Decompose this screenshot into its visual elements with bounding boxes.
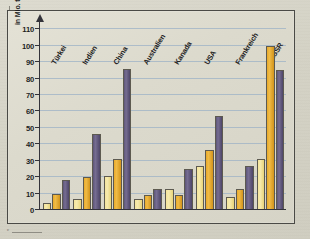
bar: [215, 116, 224, 211]
y-axis-tick-label: 100: [22, 41, 34, 50]
chart-frame: in Mio. t TürkeiIndienChinaAustralienKan…: [7, 10, 295, 224]
y-axis-tick-label: 80: [26, 74, 34, 83]
bar: [236, 189, 245, 210]
x-axis-line: [39, 209, 286, 210]
plot-area: TürkeiIndienChinaAustralienKanadaUSAFran…: [39, 21, 286, 210]
bar: [83, 177, 92, 210]
bar: [184, 169, 193, 210]
bar-group: USA: [194, 21, 225, 210]
y-axis-line: [39, 21, 40, 210]
category-label: Kanada: [172, 40, 193, 66]
bar-group: Türkei: [41, 21, 72, 210]
bar-group: Indien: [72, 21, 103, 210]
y-axis-title: in Mio. t: [14, 0, 21, 25]
y-axis-tick: [35, 209, 39, 210]
registration-tick-bottom-left: [12, 232, 42, 233]
y-axis-tick: [35, 127, 39, 128]
y-axis-tick: [35, 78, 39, 79]
bar: [62, 180, 71, 210]
y-axis-tick: [35, 61, 39, 62]
bar: [205, 150, 214, 210]
y-axis-tick-label: 20: [26, 173, 34, 182]
bar: [196, 166, 205, 210]
bar: [266, 46, 275, 210]
y-axis-tick: [35, 45, 39, 46]
bar: [113, 159, 122, 210]
y-axis-tick-label: 30: [26, 156, 34, 165]
bar-groups: TürkeiIndienChinaAustralienKanadaUSAFran…: [41, 21, 286, 210]
category-label: Indien: [80, 44, 99, 66]
y-axis-tick-label: 60: [26, 107, 34, 116]
bar-group: Kanada: [164, 21, 195, 210]
y-axis-tick: [35, 28, 39, 29]
y-axis-tick: [35, 110, 39, 111]
bar: [165, 189, 174, 210]
y-axis-tick: [35, 143, 39, 144]
bar: [104, 176, 113, 211]
bar: [257, 159, 266, 210]
category-label: USA: [203, 49, 219, 67]
y-axis-tick: [35, 160, 39, 161]
category-label: Türkei: [50, 44, 69, 67]
y-axis-tick-label: 40: [26, 140, 34, 149]
category-label: China: [111, 45, 129, 66]
y-axis-tick-label: 0: [30, 206, 34, 215]
y-axis-tick: [35, 94, 39, 95]
y-axis-tick-label: 110: [22, 25, 34, 34]
bar: [245, 166, 254, 210]
y-axis-tick-label: 50: [26, 123, 34, 132]
bar: [123, 69, 132, 210]
chart-page: in Mio. t TürkeiIndienChinaAustralienKan…: [0, 0, 310, 239]
y-axis-tick: [35, 193, 39, 194]
bar-group: Frankreich: [225, 21, 256, 210]
bar-group: UdSSR: [255, 21, 286, 210]
y-axis-tick-label: 10: [26, 189, 34, 198]
y-axis-tick-label: 70: [26, 90, 34, 99]
bar: [52, 194, 61, 210]
bar: [153, 189, 162, 210]
y-axis-arrow-icon: [36, 14, 44, 22]
bar-group: Australien: [133, 21, 164, 210]
y-axis-tick: [35, 176, 39, 177]
y-axis-tick-label: 90: [26, 58, 34, 67]
bar: [92, 134, 101, 210]
bar: [276, 70, 285, 210]
corner-mark-bottom-left: c: [7, 227, 9, 232]
bar-group: China: [102, 21, 133, 210]
